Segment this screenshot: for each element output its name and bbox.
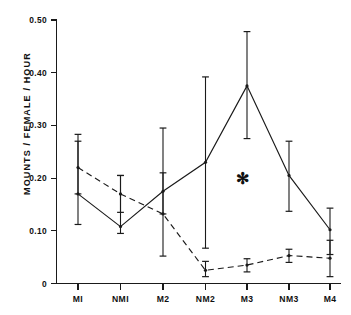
data-point-marker xyxy=(204,269,207,272)
data-point-marker xyxy=(76,166,79,169)
y-tick-label: 0.10 xyxy=(29,226,47,236)
data-point-marker xyxy=(119,192,122,195)
chart-background xyxy=(0,0,351,315)
annotations-layer: ✻ xyxy=(236,170,249,187)
data-point-marker xyxy=(328,257,331,260)
data-point-marker xyxy=(328,228,331,231)
x-tick-label: MI xyxy=(73,294,83,304)
data-point-marker xyxy=(204,161,207,164)
x-tick-label: M2 xyxy=(157,294,170,304)
chart-figure: 00.100.200.300.400.50 MINMIM2NM2M3NM3M4 … xyxy=(0,0,351,315)
x-tick-label: NM3 xyxy=(279,294,298,304)
data-point-marker xyxy=(245,84,248,87)
y-axis-title-group: MOUNTS / FEMALE / HOUR xyxy=(22,52,32,195)
line-chart-svg: 00.100.200.300.400.50 MINMIM2NM2M3NM3M4 … xyxy=(0,0,351,315)
x-tick-label: NM2 xyxy=(196,294,215,304)
y-axis-title: MOUNTS / FEMALE / HOUR xyxy=(22,52,32,195)
x-tick-label: NMI xyxy=(112,294,129,304)
data-point-marker xyxy=(245,263,248,266)
x-tick-label: M3 xyxy=(241,294,254,304)
y-tick-label: 0.50 xyxy=(29,15,47,25)
significance-asterisk: ✻ xyxy=(236,170,249,187)
data-point-marker xyxy=(119,225,122,228)
data-point-marker xyxy=(161,212,164,215)
data-point-marker xyxy=(287,254,290,257)
y-tick-label: 0 xyxy=(42,279,47,289)
x-tick-label: M4 xyxy=(324,294,337,304)
data-point-marker xyxy=(287,174,290,177)
